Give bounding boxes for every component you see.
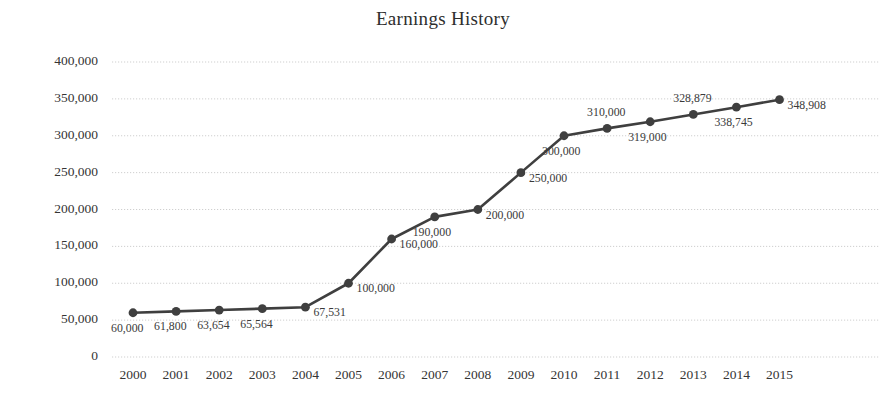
y-axis-tick-label: 200,000 (24, 201, 98, 217)
data-point-marker (258, 304, 267, 313)
data-point-marker (387, 235, 396, 244)
x-axis-tick-label: 2002 (196, 367, 242, 383)
data-point-label: 61,800 (154, 319, 186, 334)
y-axis-tick-label: 400,000 (24, 53, 98, 69)
data-point-label: 60,000 (111, 321, 143, 336)
y-axis-tick-label: 100,000 (24, 274, 98, 290)
x-axis-tick-label: 2009 (498, 367, 544, 383)
y-axis-tick-label: 50,000 (24, 311, 98, 327)
data-point-marker (775, 95, 784, 104)
y-axis-tick-label: 0 (24, 348, 98, 364)
data-point-label: 63,654 (197, 318, 229, 333)
data-point-label: 190,000 (413, 225, 451, 240)
data-point-marker (301, 303, 310, 312)
x-axis-tick-label: 2000 (110, 367, 156, 383)
data-point-marker (560, 131, 569, 140)
data-point-label: 319,000 (628, 130, 666, 145)
data-point-marker (430, 212, 439, 221)
x-axis-tick-label: 2015 (757, 367, 803, 383)
data-point-label: 348,908 (788, 98, 826, 113)
x-axis-tick-label: 2004 (282, 367, 328, 383)
x-axis-tick-label: 2001 (153, 367, 199, 383)
data-point-label: 328,879 (673, 91, 711, 106)
chart-plot-area (0, 0, 886, 402)
y-axis-tick-label: 300,000 (24, 127, 98, 143)
x-axis-tick-label: 2014 (713, 367, 759, 383)
data-point-marker (732, 103, 741, 112)
earnings-history-chart: Earnings History 050,000100,000150,00020… (0, 0, 886, 402)
y-axis-tick-label: 150,000 (24, 237, 98, 253)
x-axis-tick-label: 2003 (239, 367, 285, 383)
data-point-label: 250,000 (529, 171, 567, 186)
y-axis-tick-label: 250,000 (24, 164, 98, 180)
data-point-markers (129, 95, 784, 317)
data-point-label: 65,564 (240, 317, 272, 332)
data-point-marker (517, 168, 526, 177)
data-point-marker (172, 307, 181, 316)
data-point-label: 338,745 (714, 115, 752, 130)
data-point-label: 67,531 (313, 305, 345, 320)
data-point-marker (215, 306, 224, 315)
data-point-marker (646, 117, 655, 126)
x-axis-tick-label: 2008 (455, 367, 501, 383)
data-point-label: 200,000 (486, 208, 524, 223)
data-point-marker (603, 124, 612, 133)
x-axis-tick-label: 2011 (584, 367, 630, 383)
y-axis-tick-label: 350,000 (24, 90, 98, 106)
earnings-line-series (133, 100, 780, 313)
data-point-label: 300,000 (542, 144, 580, 159)
data-point-marker (473, 205, 482, 214)
data-point-marker (689, 110, 698, 119)
x-axis-tick-label: 2010 (541, 367, 587, 383)
x-axis-tick-label: 2005 (326, 367, 372, 383)
data-point-label: 310,000 (587, 105, 625, 120)
data-point-marker (129, 308, 138, 317)
x-axis-tick-label: 2013 (670, 367, 716, 383)
data-point-marker (344, 279, 353, 288)
data-point-label: 100,000 (357, 281, 395, 296)
x-axis-tick-label: 2012 (627, 367, 673, 383)
x-axis-tick-label: 2006 (369, 367, 415, 383)
x-axis-tick-label: 2007 (412, 367, 458, 383)
